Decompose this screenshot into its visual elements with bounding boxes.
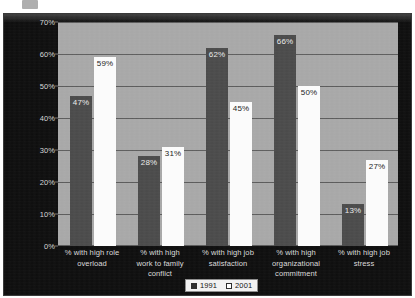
bar-value-label: 47% (73, 98, 89, 107)
bar-value-label: 62% (209, 50, 225, 59)
bar-2001-1: 59% (94, 57, 116, 246)
bar-2001-5: 27% (366, 160, 388, 246)
y-axis: 70%60%50%40%30%20%10%0% (4, 22, 55, 246)
y-axis-tick (55, 86, 58, 87)
y-axis-tick (55, 214, 58, 215)
bar-1991-1: 47% (70, 96, 92, 246)
legend-item-1991: 1991 (191, 281, 217, 290)
legend-label: 2001 (235, 281, 252, 290)
bar-value-label: 59% (97, 59, 113, 68)
x-axis-category-label: % with high jobsatisfaction (194, 248, 262, 269)
scan-artifact (22, 0, 38, 9)
bar-value-label: 66% (277, 37, 293, 46)
chart-legend: 19912001 (185, 279, 258, 292)
y-axis-tick-label: 40% (7, 114, 55, 123)
scan-edge-band (4, 14, 411, 22)
y-axis-tick (55, 246, 58, 247)
y-axis-tick-label: 60% (7, 50, 55, 59)
bar-value-label: 28% (141, 158, 157, 167)
bar-group: 47%59% (58, 22, 126, 246)
y-axis-tick (55, 22, 58, 23)
y-axis-tick-label: 0% (7, 242, 55, 251)
bar-group: 66%50% (262, 22, 330, 246)
bar-value-label: 50% (301, 88, 317, 97)
bar-1991-5: 13% (342, 204, 364, 246)
legend-swatch-icon (191, 283, 197, 289)
bar-value-label: 31% (165, 149, 181, 158)
x-axis-category-label: % with high roleoverload (58, 248, 126, 269)
y-axis-tick-label: 20% (7, 178, 55, 187)
y-axis-tick (55, 54, 58, 55)
legend-label: 1991 (200, 281, 217, 290)
bar-1991-3: 62% (206, 48, 228, 246)
y-axis-tick-label: 70% (7, 18, 55, 27)
bar-1991-4: 66% (274, 35, 296, 246)
x-axis-category-label: % with high jobstress (330, 248, 398, 269)
bar-2001-3: 45% (230, 102, 252, 246)
y-axis-tick-label: 50% (7, 82, 55, 91)
bar-value-label: 45% (233, 104, 249, 113)
y-axis-tick (55, 150, 58, 151)
bar-value-label: 13% (345, 206, 361, 215)
y-axis-tick (55, 182, 58, 183)
bar-group: 13%27% (330, 22, 398, 246)
x-axis-category-label: % with highwork to familyconflict (126, 248, 194, 280)
plot-area: 47%59%28%31%62%45%66%50%13%27% (58, 22, 398, 246)
bar-1991-2: 28% (138, 156, 160, 246)
bar-2001-4: 50% (298, 86, 320, 246)
grouped-bar-chart: 70%60%50%40%30%20%10%0% 47%59%28%31%62%4… (3, 13, 412, 296)
bar-2001-2: 31% (162, 147, 184, 246)
legend-swatch-icon (226, 283, 232, 289)
x-axis-category-label: % with highorganizationalcommitment (262, 248, 330, 280)
bar-value-label: 27% (369, 162, 385, 171)
bar-group: 62%45% (194, 22, 262, 246)
y-axis-tick (55, 118, 58, 119)
y-axis-tick-label: 30% (7, 146, 55, 155)
bar-group: 28%31% (126, 22, 194, 246)
y-axis-tick-label: 10% (7, 210, 55, 219)
legend-item-2001: 2001 (226, 281, 252, 290)
